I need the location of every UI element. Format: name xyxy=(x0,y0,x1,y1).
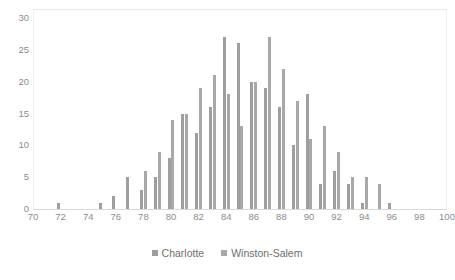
bar xyxy=(388,203,391,209)
bar xyxy=(185,114,188,210)
bar xyxy=(126,177,129,209)
bar xyxy=(213,75,216,209)
bar xyxy=(223,37,226,209)
bar xyxy=(323,126,326,209)
x-axis-tick-label: 96 xyxy=(387,212,398,222)
chart-legend: CharlotteWinston-Salem xyxy=(0,248,454,259)
bar xyxy=(168,158,171,209)
bar xyxy=(144,171,147,209)
x-axis: 707274767880828486889092949698100 xyxy=(0,212,454,228)
x-axis-tick-label: 100 xyxy=(439,212,455,222)
legend-swatch-icon xyxy=(221,250,227,256)
x-axis-tick-label: 98 xyxy=(414,212,425,222)
bar xyxy=(209,107,212,209)
bar xyxy=(337,152,340,209)
x-axis-tick-label: 94 xyxy=(359,212,370,222)
bar xyxy=(365,177,368,209)
x-axis-tick-label: 88 xyxy=(276,212,287,222)
bar xyxy=(378,184,381,209)
x-axis-tick-label: 74 xyxy=(83,212,94,222)
bar xyxy=(158,152,161,209)
bar xyxy=(306,94,309,209)
bar xyxy=(264,88,267,209)
bar xyxy=(227,94,230,209)
bar xyxy=(154,177,157,209)
x-axis-tick-label: 72 xyxy=(55,212,66,222)
legend-item-label: Winston-Salem xyxy=(231,248,302,259)
x-axis-tick-label: 76 xyxy=(111,212,122,222)
bar xyxy=(347,184,350,209)
bar xyxy=(296,101,299,209)
legend-item[interactable]: Charlotte xyxy=(152,248,205,259)
bar xyxy=(181,114,184,210)
bar xyxy=(250,82,253,209)
bar xyxy=(278,107,281,209)
legend-item-label: Charlotte xyxy=(162,248,205,259)
bar xyxy=(57,203,60,209)
x-axis-tick-label: 92 xyxy=(331,212,342,222)
bar xyxy=(237,43,240,209)
bar xyxy=(195,133,198,209)
x-axis-tick-label: 78 xyxy=(138,212,149,222)
x-axis-tick-label: 90 xyxy=(304,212,315,222)
bar xyxy=(282,69,285,209)
bar xyxy=(254,82,257,209)
x-axis-tick-label: 86 xyxy=(249,212,260,222)
x-axis-tick-label: 84 xyxy=(221,212,232,222)
bar xyxy=(351,177,354,209)
bar xyxy=(171,120,174,209)
bar xyxy=(292,145,295,209)
bar xyxy=(319,184,322,209)
bar xyxy=(268,37,271,209)
bar xyxy=(140,190,143,209)
legend-swatch-icon xyxy=(152,250,158,256)
legend-item[interactable]: Winston-Salem xyxy=(221,248,302,259)
bar xyxy=(361,203,364,209)
bar xyxy=(333,171,336,209)
bar xyxy=(99,203,102,209)
bar xyxy=(309,139,312,209)
bar xyxy=(240,126,243,209)
x-axis-tick-label: 70 xyxy=(28,212,39,222)
bar xyxy=(199,88,202,209)
x-axis-tick-label: 82 xyxy=(193,212,204,222)
bar xyxy=(112,196,115,209)
x-axis-tick-label: 80 xyxy=(166,212,177,222)
